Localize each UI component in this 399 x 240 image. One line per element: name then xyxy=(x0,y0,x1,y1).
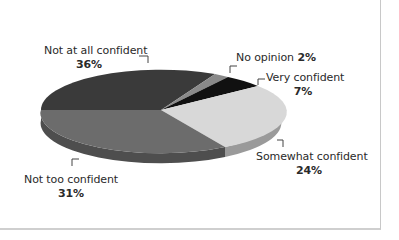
leader-no-opinion xyxy=(230,66,237,73)
label-no-opinion: No opinion 2% xyxy=(236,51,316,65)
label-name: Very confident xyxy=(266,71,340,85)
label-pct: 7% xyxy=(266,85,340,99)
leader-not-too xyxy=(72,159,79,166)
label-pct: 24% xyxy=(256,164,362,178)
leader-somewhat xyxy=(277,140,283,147)
label-somewhat-confident: Somewhat confident 24% xyxy=(256,150,362,178)
label-pct: 2% xyxy=(297,51,315,64)
label-name: Not too confident xyxy=(24,173,118,187)
label-not-too-confident: Not too confident 31% xyxy=(24,173,118,201)
label-name: No opinion xyxy=(236,51,294,64)
label-name: Somewhat confident xyxy=(256,150,362,164)
leader-not-at-all xyxy=(139,56,148,63)
label-pct: 31% xyxy=(24,187,118,201)
label-very-confident: Very confident 7% xyxy=(266,71,340,99)
leader-very xyxy=(258,79,265,85)
label-name: Not at all confident xyxy=(44,44,134,58)
label-not-at-all-confident: Not at all confident 36% xyxy=(44,44,134,72)
label-pct: 36% xyxy=(44,58,134,72)
pie-top xyxy=(41,70,287,154)
